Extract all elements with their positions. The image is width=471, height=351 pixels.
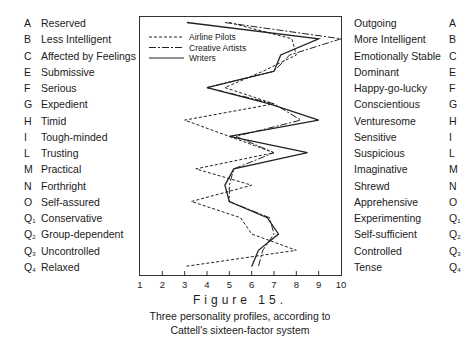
x-axis-ticks: 12345678910 — [137, 271, 346, 290]
figure-subtitle-line1: Three personality profiles, according to — [135, 309, 345, 323]
figure-subtitle: Three personality profiles, according to… — [135, 309, 345, 337]
x-tick-label: 5 — [227, 279, 232, 290]
legend: Airline PilotsCreative ArtistsWriters — [149, 32, 246, 63]
plot-frame — [140, 17, 342, 276]
figure-title: Figure 15. — [135, 293, 345, 307]
legend-label: Airline Pilots — [189, 32, 236, 42]
x-tick-label: 7 — [271, 279, 276, 290]
x-tick-label: 3 — [182, 279, 187, 290]
x-tick-label: 9 — [316, 279, 321, 290]
x-tick-label: 6 — [249, 279, 254, 290]
series-line-creative-artists — [207, 23, 341, 267]
x-tick-label: 2 — [160, 279, 165, 290]
x-tick-label: 10 — [336, 279, 347, 290]
x-tick-label: 4 — [204, 279, 209, 290]
legend-label: Writers — [189, 53, 216, 63]
x-tick-label: 1 — [137, 279, 142, 290]
figure-subtitle-line2: Cattell's sixteen-factor system — [135, 323, 345, 337]
x-tick-label: 8 — [294, 279, 299, 290]
legend-label: Creative Artists — [189, 43, 246, 53]
